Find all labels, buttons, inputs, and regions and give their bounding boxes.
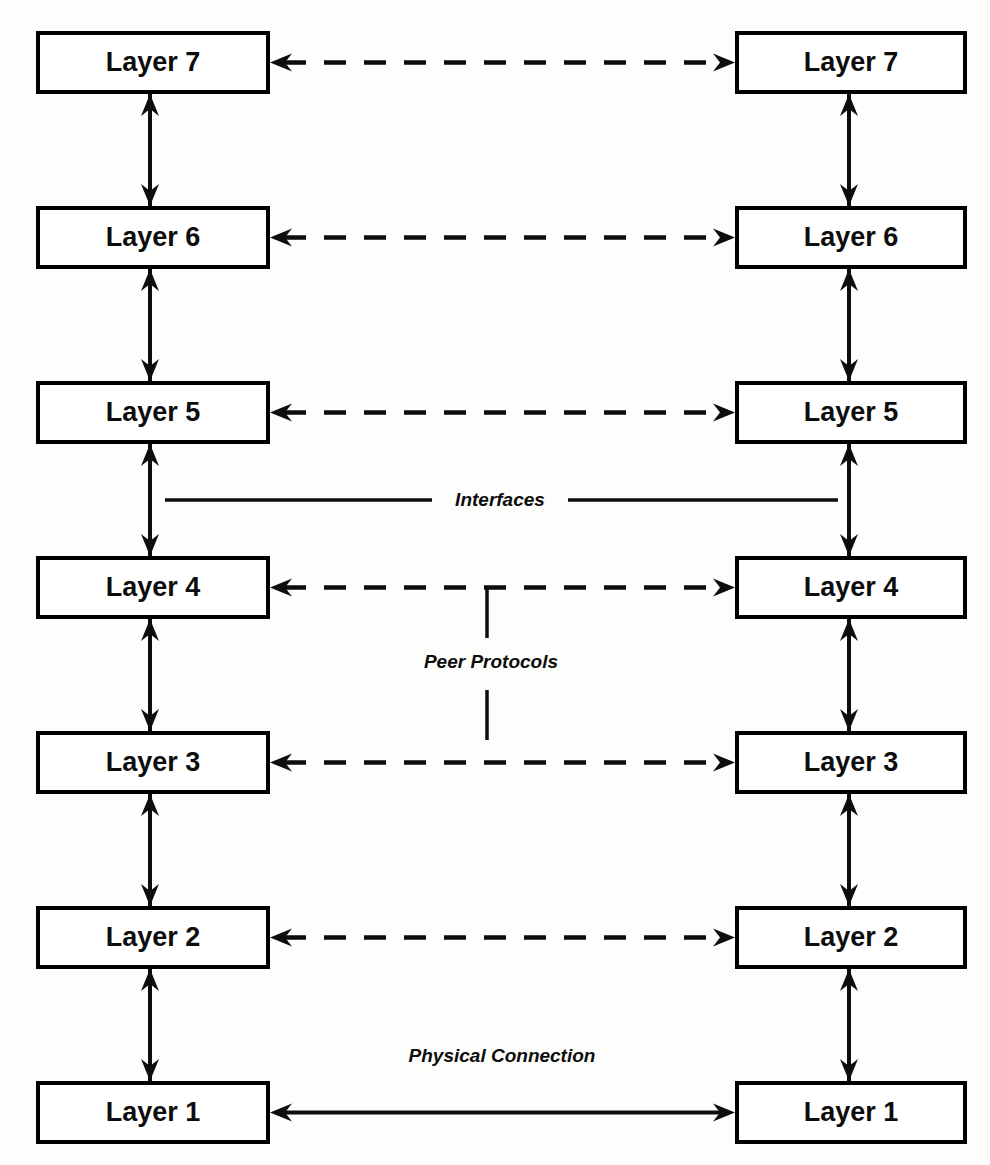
interface-arrow-left-7-to-6 — [141, 94, 159, 206]
layer-box-text: Layer 3 — [106, 747, 201, 777]
diagram-canvas: Layer 7Layer 7Layer 6Layer 6Layer 5Layer… — [0, 0, 990, 1165]
peer-link-layer-5 — [270, 404, 735, 422]
peer-link-layer-7 — [270, 54, 735, 72]
arrowhead-right-icon — [713, 54, 735, 72]
horizontal-peer-arrows-group — [270, 54, 735, 1122]
layer-box-text: Layer 2 — [804, 922, 899, 952]
layer-box-left-1: Layer 1 — [38, 1083, 268, 1142]
layer-box-text: Layer 1 — [804, 1097, 899, 1127]
interface-arrow-left-6-to-5 — [141, 269, 159, 381]
layer-box-text: Layer 4 — [106, 572, 201, 602]
interface-arrow-right-3-to-2 — [840, 794, 858, 906]
layer-box-text: Layer 5 — [106, 397, 201, 427]
arrowhead-right-icon — [713, 229, 735, 247]
layer-box-right-5: Layer 5 — [737, 383, 965, 442]
layer-box-left-4: Layer 4 — [38, 558, 268, 617]
layer-box-left-5: Layer 5 — [38, 383, 268, 442]
interface-arrow-left-2-to-1 — [141, 969, 159, 1081]
layer-box-right-1: Layer 1 — [737, 1083, 965, 1142]
arrowhead-right-icon — [713, 929, 735, 947]
peer-protocols-annotation-label: Peer Protocols — [424, 651, 558, 672]
interfaces-annotation-label: Interfaces — [455, 489, 545, 510]
arrowhead-right-icon — [713, 579, 735, 597]
layer-box-left-2: Layer 2 — [38, 908, 268, 967]
peer-link-layer-4 — [270, 579, 735, 597]
osi-layer-diagram: Layer 7Layer 7Layer 6Layer 6Layer 5Layer… — [0, 0, 990, 1165]
layer-box-text: Layer 7 — [106, 47, 201, 77]
layer-box-text: Layer 6 — [804, 222, 899, 252]
arrowhead-right-icon — [713, 754, 735, 772]
interface-arrow-right-4-to-3 — [840, 619, 858, 731]
layer-box-right-3: Layer 3 — [737, 733, 965, 792]
layer-box-right-6: Layer 6 — [737, 208, 965, 267]
interface-arrow-right-7-to-6 — [840, 94, 858, 206]
interface-arrow-left-3-to-2 — [141, 794, 159, 906]
layer-box-right-2: Layer 2 — [737, 908, 965, 967]
peer-link-layer-1 — [270, 1104, 735, 1122]
layer-box-text: Layer 7 — [804, 47, 899, 77]
arrowhead-right-icon — [713, 404, 735, 422]
peer-link-layer-3 — [270, 754, 735, 772]
annotation-lines-group — [165, 500, 838, 740]
peer-link-layer-6 — [270, 229, 735, 247]
layer-box-text: Layer 2 — [106, 922, 201, 952]
layer-box-left-6: Layer 6 — [38, 208, 268, 267]
layer-box-text: Layer 5 — [804, 397, 899, 427]
layer-box-right-4: Layer 4 — [737, 558, 965, 617]
interface-arrow-right-6-to-5 — [840, 269, 858, 381]
layer-box-text: Layer 6 — [106, 222, 201, 252]
layer-box-right-7: Layer 7 — [737, 33, 965, 92]
layer-box-text: Layer 4 — [804, 572, 899, 602]
layer-box-left-3: Layer 3 — [38, 733, 268, 792]
layer-box-left-7: Layer 7 — [38, 33, 268, 92]
peer-link-layer-2 — [270, 929, 735, 947]
interface-arrow-right-5-to-4 — [840, 444, 858, 556]
interface-arrow-left-5-to-4 — [141, 444, 159, 556]
layer-box-text: Layer 1 — [106, 1097, 201, 1127]
interface-arrow-right-2-to-1 — [840, 969, 858, 1081]
physical-connection-annotation-label: Physical Connection — [409, 1045, 596, 1066]
layer-box-text: Layer 3 — [804, 747, 899, 777]
interface-arrow-left-4-to-3 — [141, 619, 159, 731]
